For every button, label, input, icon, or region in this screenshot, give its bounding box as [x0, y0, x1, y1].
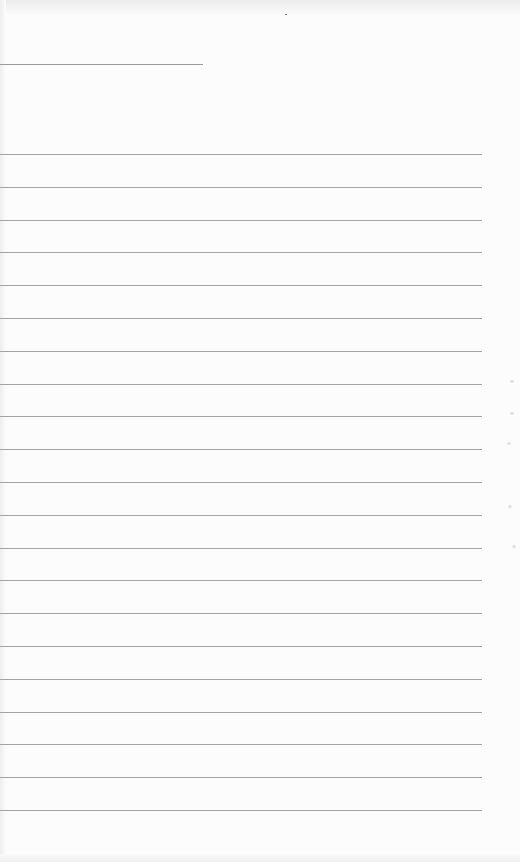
header-line	[0, 64, 203, 65]
scan-bottom-edge	[0, 854, 520, 862]
ruled-line	[0, 154, 482, 155]
ruled-line	[0, 285, 482, 286]
ruled-line	[0, 744, 482, 745]
bleed-through-mark	[512, 545, 516, 548]
ruled-line	[0, 613, 482, 614]
ruled-line	[0, 187, 482, 188]
scan-left-edge	[0, 0, 6, 862]
ruled-line	[0, 646, 482, 647]
ruled-line	[0, 351, 482, 352]
ruled-line	[0, 482, 482, 483]
ruled-line	[0, 318, 482, 319]
ruled-line	[0, 810, 482, 811]
ruled-line	[0, 580, 482, 581]
bleed-through-mark	[508, 505, 512, 508]
ruled-line	[0, 777, 482, 778]
bleed-through-mark	[510, 380, 514, 383]
ruled-line	[0, 416, 482, 417]
bleed-through-mark	[507, 442, 511, 445]
ruled-line	[0, 679, 482, 680]
scan-top-edge	[0, 0, 520, 14]
ruled-line	[0, 712, 482, 713]
ruled-line	[0, 384, 482, 385]
ruled-line	[0, 515, 482, 516]
ruled-line	[0, 252, 482, 253]
bleed-through-mark	[510, 412, 514, 415]
paper-speck	[285, 14, 287, 15]
ruled-line	[0, 548, 482, 549]
ruled-line	[0, 220, 482, 221]
ruled-line	[0, 449, 482, 450]
